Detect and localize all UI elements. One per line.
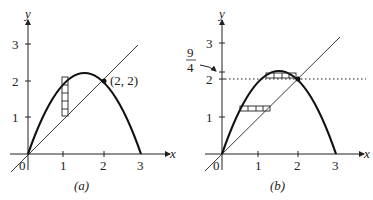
y-tick-1: 1 [12, 110, 19, 125]
fixed-point-marker [296, 77, 301, 82]
panel-b: 9 4 y x 0 1 2 3 1 2 3 (b) [186, 6, 370, 193]
line-y-equals-x [205, 37, 340, 171]
y-tick-2: 2 [206, 72, 213, 87]
x-tick-0: 0 [213, 158, 220, 173]
fixed-point-label: (2, 2) [110, 73, 138, 88]
x-tick-0: 0 [19, 158, 26, 173]
fixed-point-marker [102, 79, 107, 84]
line-y-equals-x [11, 45, 138, 172]
y-axis-label: y [217, 6, 225, 21]
parabola-curve [222, 71, 336, 154]
arrow-to-9-4 [200, 65, 216, 71]
x-tick-1: 1 [255, 158, 262, 173]
x-tick-2: 2 [100, 158, 107, 173]
x-tick-2: 2 [294, 158, 301, 173]
max-label-denominator: 4 [187, 60, 194, 75]
x-axis-label: x [169, 146, 176, 161]
max-label-numerator: 9 [187, 45, 194, 60]
x-tick-1: 1 [60, 158, 67, 173]
y-tick-2: 2 [12, 74, 19, 89]
y-axis-label: y [23, 6, 31, 21]
caption-a: (a) [74, 178, 89, 193]
y-tick-3: 3 [12, 37, 19, 52]
panel-a: y x 0 1 2 3 1 2 3 (2, 2) (a) [10, 6, 176, 193]
x-tick-3: 3 [137, 158, 144, 173]
caption-b: (b) [270, 178, 285, 193]
horizontal-ladder-lower [240, 106, 270, 111]
figure: y x 0 1 2 3 1 2 3 (2, 2) (a) [0, 0, 373, 200]
y-tick-1: 1 [206, 110, 213, 125]
x-axis-label: x [363, 146, 370, 161]
x-tick-3: 3 [332, 158, 339, 173]
y-tick-3: 3 [206, 36, 213, 51]
